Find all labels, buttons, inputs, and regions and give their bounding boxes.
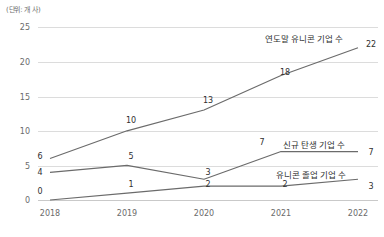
series-label-year-end-unicorns: 연도말 유니콘 기업 수 [265,32,343,44]
series-label-graduated-unicorns: 유니콘 졸업 기업 수 [276,168,346,180]
point-label-a-2022: 22 [366,40,376,49]
series-label-new-unicorns: 신규 탄생 기업 수 [283,138,345,150]
point-label-b-2021: 7 [259,138,264,147]
point-label-c-2019: 1 [128,180,133,189]
point-label-c-2020: 2 [205,180,210,189]
point-label-a-2020: 13 [203,96,213,105]
point-label-b-2022: 7 [368,148,373,157]
point-label-a-2018: 6 [37,152,42,161]
point-label-a-2019: 10 [126,116,136,125]
point-label-a-2021: 18 [280,68,290,77]
point-label-c-2018: 0 [37,187,42,196]
series-line-graduated-unicorns [50,179,358,200]
point-label-b-2019: 5 [128,152,133,161]
point-label-b-2018: 4 [37,168,42,177]
unicorn-companies-line-chart: (단위: 개 사) 25 20 15 10 5 0 2018 2019 2020… [0,0,384,237]
point-label-b-2020: 3 [205,168,210,177]
point-label-c-2022: 3 [368,182,373,191]
point-label-c-2021: 2 [282,180,287,189]
